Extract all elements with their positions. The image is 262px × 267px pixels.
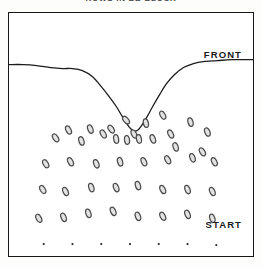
start-dot xyxy=(71,243,73,245)
start-dot xyxy=(215,244,217,246)
grain-marker xyxy=(187,117,194,127)
grain-marker xyxy=(208,187,216,197)
start-dot xyxy=(100,243,102,245)
start-dot xyxy=(129,243,131,245)
grain-marker xyxy=(35,213,43,223)
grain-marker xyxy=(41,159,50,169)
figure-root: ROWS IN BB BLOCK FRONT START xyxy=(0,0,262,267)
grain-marker xyxy=(107,124,116,134)
front-label: FRONT xyxy=(204,49,242,60)
grain-marker xyxy=(60,212,68,222)
front-curve-path xyxy=(9,60,253,132)
grain-marker xyxy=(189,153,197,163)
grain-marker xyxy=(136,134,143,144)
start-label: START xyxy=(206,219,242,230)
grain-marker xyxy=(51,133,60,143)
grain-marker xyxy=(85,208,92,218)
figure-plate: FRONT START xyxy=(8,12,254,257)
grain-marker xyxy=(61,187,69,197)
grain-marker xyxy=(172,142,179,152)
grain-marker xyxy=(99,129,108,139)
grain-marker xyxy=(38,185,47,195)
grain-marker xyxy=(134,211,142,221)
grain-marker xyxy=(112,183,120,193)
grain-marker xyxy=(109,206,117,216)
grain-marker xyxy=(66,157,74,167)
grain-marker xyxy=(113,134,119,143)
caption-strip: ROWS IN BB BLOCK xyxy=(0,0,262,7)
start-dot xyxy=(43,243,45,245)
front-curve xyxy=(9,60,253,132)
grain-marker-field xyxy=(35,110,219,223)
grain-marker xyxy=(184,209,192,219)
grain-marker xyxy=(78,136,85,146)
start-dot xyxy=(186,243,188,245)
grain-marker xyxy=(117,157,124,167)
figure-caption: ROWS IN BB BLOCK xyxy=(86,0,177,3)
grain-marker xyxy=(92,159,100,169)
grain-marker xyxy=(198,147,207,157)
start-dot xyxy=(158,243,160,245)
grain-marker xyxy=(159,185,167,195)
grain-marker xyxy=(184,185,192,195)
grain-marker xyxy=(88,183,95,193)
grain-marker xyxy=(143,118,150,128)
grain-marker xyxy=(134,181,141,191)
grain-marker xyxy=(121,115,130,125)
grain-marker xyxy=(203,127,211,137)
grain-marker xyxy=(124,135,130,144)
grain-marker xyxy=(149,134,157,144)
grain-marker xyxy=(210,157,218,167)
grain-marker xyxy=(140,157,148,167)
grain-marker xyxy=(159,110,167,120)
grain-marker xyxy=(167,129,175,139)
grain-marker xyxy=(159,211,167,221)
grain-marker xyxy=(163,155,171,165)
grain-marker xyxy=(64,125,72,135)
grain-marker xyxy=(86,124,94,134)
start-dot-row xyxy=(43,243,218,246)
